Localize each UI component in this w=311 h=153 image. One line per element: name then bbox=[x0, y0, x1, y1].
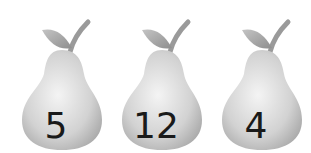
pear-number: 12 bbox=[104, 106, 208, 146]
pear-number: 5 bbox=[4, 106, 108, 146]
pear-1: 5 bbox=[4, 0, 108, 153]
pear-2: 12 bbox=[104, 0, 208, 153]
pear-number: 4 bbox=[204, 106, 308, 146]
pear-3: 4 bbox=[204, 0, 308, 153]
